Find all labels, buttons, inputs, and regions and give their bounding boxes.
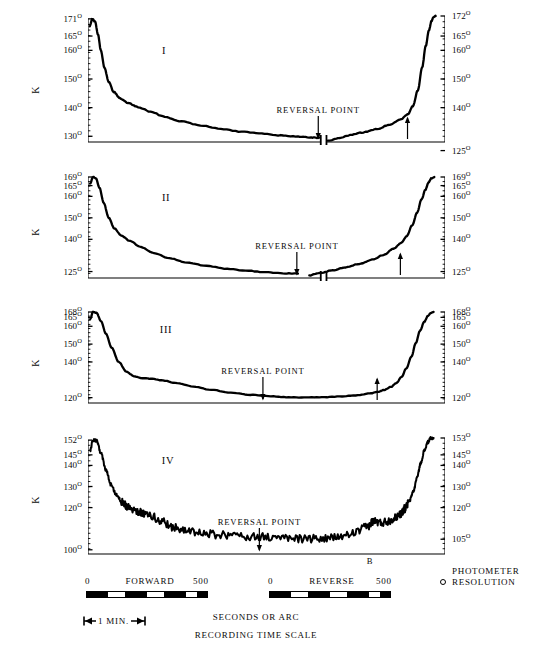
- scale-legend: 0 FORWARD 500 0 REVERSE 500 1 MIN. SECON…: [0, 572, 533, 649]
- y-axis-tick-label: 120O: [63, 393, 82, 402]
- y-axis-tick-label: 152O: [63, 436, 82, 445]
- y-axis-tick-label: 150O: [63, 340, 82, 349]
- units-label: SECONDS OR ARC: [213, 612, 300, 622]
- forward-start-label: 0: [85, 576, 90, 586]
- y-axis-tick-label: 160O: [452, 192, 471, 201]
- y-axis-tick-label: 150O: [63, 75, 82, 84]
- photometer-resolution-icon: [440, 579, 446, 585]
- y-axis-tick-label: 150O: [452, 75, 471, 84]
- figure-root: K I 171O165O160O150O140O130O172O165O160O…: [0, 0, 533, 649]
- y-axis-tick-label: 171O: [63, 14, 82, 23]
- reverse-end-label: 500: [376, 576, 392, 586]
- one-minute-label: 1 MIN.: [96, 616, 131, 626]
- y-axis-tick-label: 140O: [63, 461, 82, 470]
- y-axis-tick-label: 150O: [63, 213, 82, 222]
- trace-svg-I: [88, 12, 445, 152]
- axis-title-k-1: K: [30, 86, 41, 94]
- forward-end-label: 500: [193, 576, 209, 586]
- y-axis-tick-label: 150O: [452, 213, 471, 222]
- photometer-resolution-label: PHOTOMETER RESOLUTION: [452, 566, 519, 588]
- y-axis-tick-label: 172O: [452, 12, 471, 21]
- recording-time-scale-label: RECORDING TIME SCALE: [195, 630, 317, 640]
- reversal-point-label: REVERSAL POINT: [277, 105, 360, 115]
- y-axis-tick-label: 160O: [452, 46, 471, 55]
- y-axis-tick-label: 125O: [452, 146, 471, 155]
- y-axis-tick-label: 120O: [452, 393, 471, 402]
- reverse-label: REVERSE: [309, 576, 354, 586]
- y-axis-tick-label: 160O: [452, 322, 471, 331]
- y-axis-tick-label: 125O: [63, 267, 82, 276]
- plot-area-IV: [88, 434, 445, 564]
- y-axis-tick-label: 165O: [452, 32, 471, 41]
- y-axis-tick-label: 140O: [452, 357, 471, 366]
- trace-svg-III: [88, 308, 445, 413]
- y-axis-tick-label: 160O: [63, 192, 82, 201]
- reverse-scale-bar: [269, 591, 391, 598]
- y-axis-tick-label: 130O: [452, 482, 471, 491]
- y-axis-tick-label: 140O: [63, 357, 82, 366]
- y-axis-tick-label: 140O: [63, 235, 82, 244]
- y-axis-tick-label: 140O: [452, 235, 471, 244]
- y-axis-tick-label: 165O: [63, 32, 82, 41]
- photometer-line-1: PHOTOMETER: [452, 566, 519, 577]
- y-axis-tick-label: 100O: [63, 545, 82, 554]
- y-axis-tick-label: 125O: [452, 267, 471, 276]
- axis-title-k-3: K: [30, 359, 41, 367]
- panel-IV: K IV 152O145O140O130O120O100O153O145O140…: [0, 422, 533, 572]
- plot-area-III: [88, 308, 445, 413]
- reversal-point-label: REVERSAL POINT: [218, 517, 301, 527]
- forward-scale-bar: [86, 591, 208, 598]
- trace-svg-II: [88, 173, 445, 288]
- y-axis-tick-label: 120O: [452, 503, 471, 512]
- y-axis-tick-label: 130O: [63, 132, 82, 141]
- y-axis-tick-label: 160O: [63, 322, 82, 331]
- y-axis-tick-label: 140O: [63, 103, 82, 112]
- trace-svg-IV: [88, 434, 445, 564]
- reversal-point-label: REVERSAL POINT: [255, 241, 338, 251]
- y-axis-tick-label: 160O: [63, 46, 82, 55]
- y-axis-tick-label: 120O: [63, 503, 82, 512]
- y-axis-tick-label: 150O: [452, 340, 471, 349]
- reversal-point-label: REVERSAL POINT: [221, 366, 304, 376]
- y-axis-tick-label: 140O: [452, 461, 471, 470]
- y-axis-tick-label: 105O: [452, 535, 471, 544]
- axis-title-k-4: K: [30, 496, 41, 504]
- plot-area-II: [88, 173, 445, 288]
- y-axis-tick-label: 140O: [452, 103, 471, 112]
- y-axis-tick-label: 153O: [452, 434, 471, 443]
- reverse-start-label: 0: [268, 576, 273, 586]
- forward-label: FORWARD: [126, 576, 175, 586]
- axis-title-k-2: K: [30, 228, 41, 236]
- b-marker-label: B: [367, 556, 374, 566]
- photometer-line-2: RESOLUTION: [452, 577, 519, 588]
- panel-II: K II 169O165O160O150O140O125O169O165O160…: [0, 162, 533, 297]
- plot-area-I: [88, 12, 445, 152]
- y-axis-tick-label: 130O: [63, 482, 82, 491]
- panel-III: K III 168O165O160O150O140O120O168O165O16…: [0, 297, 533, 422]
- panel-I: K I 171O165O160O150O140O130O172O165O160O…: [0, 0, 533, 162]
